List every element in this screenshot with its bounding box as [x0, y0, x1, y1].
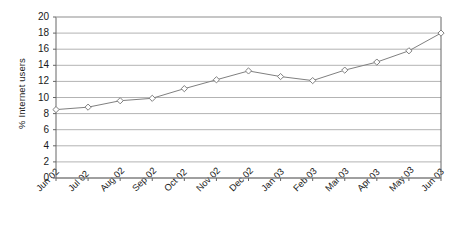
data-point-marker	[85, 104, 91, 110]
data-point-marker	[374, 59, 380, 65]
data-point-marker	[245, 68, 251, 74]
data-point-marker	[181, 86, 187, 92]
data-point-marker	[310, 77, 316, 83]
series-markers	[53, 30, 444, 113]
data-point-marker	[53, 106, 59, 112]
data-point-marker	[438, 30, 444, 36]
data-point-marker	[406, 48, 412, 54]
data-point-marker	[117, 98, 123, 104]
gridlines	[56, 17, 441, 178]
data-point-marker	[149, 95, 155, 101]
data-point-marker	[342, 67, 348, 73]
plot-area	[0, 0, 456, 226]
data-point-marker	[213, 77, 219, 83]
chart-container: % Internet users 02468101214161820 Jun 0…	[0, 0, 456, 226]
data-point-marker	[277, 73, 283, 79]
